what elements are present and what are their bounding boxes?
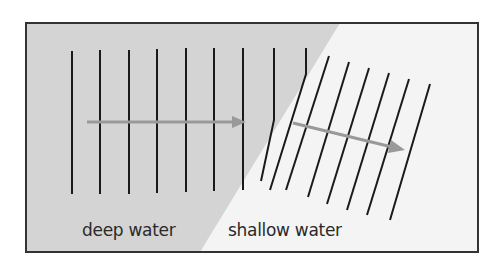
deep-water-label: deep water <box>82 220 175 240</box>
shallow-water-label: shallow water <box>228 220 342 240</box>
